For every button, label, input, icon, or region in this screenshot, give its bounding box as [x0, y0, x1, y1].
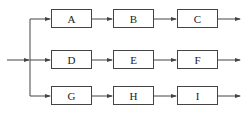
- block-diagram: A B C D E F G H I: [0, 0, 246, 118]
- block-label: H: [130, 90, 138, 102]
- block-label: F: [194, 54, 200, 66]
- block-e: E: [113, 50, 154, 69]
- block-d: D: [51, 50, 92, 69]
- block-label: C: [194, 13, 201, 25]
- block-label: I: [196, 90, 200, 102]
- block-h: H: [113, 86, 154, 105]
- block-f: F: [177, 50, 218, 69]
- block-c: C: [177, 9, 218, 28]
- block-g: G: [51, 86, 92, 105]
- block-i: I: [177, 86, 218, 105]
- block-label: B: [130, 13, 137, 25]
- block-label: D: [68, 54, 76, 66]
- block-a: A: [51, 9, 92, 28]
- block-label: G: [68, 90, 76, 102]
- block-label: E: [130, 54, 137, 66]
- block-b: B: [113, 9, 154, 28]
- block-label: A: [68, 13, 76, 25]
